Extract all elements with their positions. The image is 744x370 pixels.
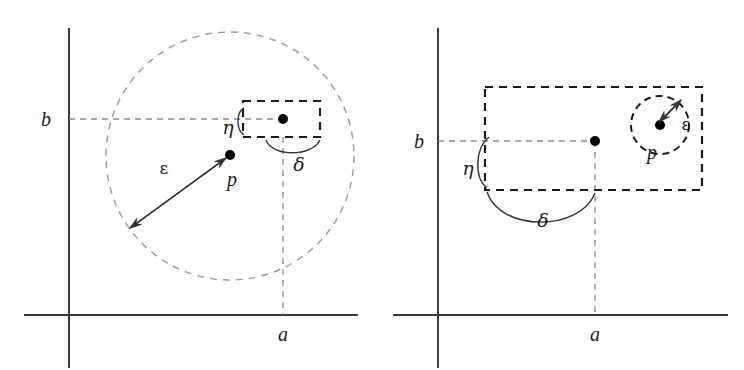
left-a-axis-label: a bbox=[278, 323, 288, 345]
left-point-ab-dot bbox=[278, 114, 288, 124]
math-diagram-svg: b a p ε η δ bbox=[0, 0, 744, 370]
right-epsilon-label: ε bbox=[682, 114, 691, 134]
right-point-ab-dot bbox=[590, 136, 600, 146]
left-b-axis-label: b bbox=[41, 108, 51, 130]
left-epsilon-arrow-inward bbox=[133, 158, 226, 226]
left-point-p-dot bbox=[225, 150, 235, 160]
right-panel: b a p ε η δ bbox=[393, 28, 728, 368]
right-p-label: p bbox=[645, 141, 657, 164]
left-delta-brace bbox=[266, 140, 320, 153]
figure-container: b a p ε η δ bbox=[0, 0, 744, 370]
left-epsilon-label: ε bbox=[160, 158, 169, 178]
right-a-axis-label: a bbox=[590, 323, 600, 345]
right-eta-label: η bbox=[462, 157, 474, 179]
right-eta-brace bbox=[478, 137, 489, 188]
left-delta-label: δ bbox=[293, 153, 304, 175]
right-delta-label: δ bbox=[537, 209, 548, 231]
left-eta-label: η bbox=[222, 116, 234, 138]
left-panel: b a p ε η δ bbox=[24, 28, 358, 368]
right-epsilon-arrow-inward bbox=[659, 102, 679, 122]
right-b-axis-label: b bbox=[414, 130, 424, 152]
left-p-label: p bbox=[225, 168, 237, 191]
